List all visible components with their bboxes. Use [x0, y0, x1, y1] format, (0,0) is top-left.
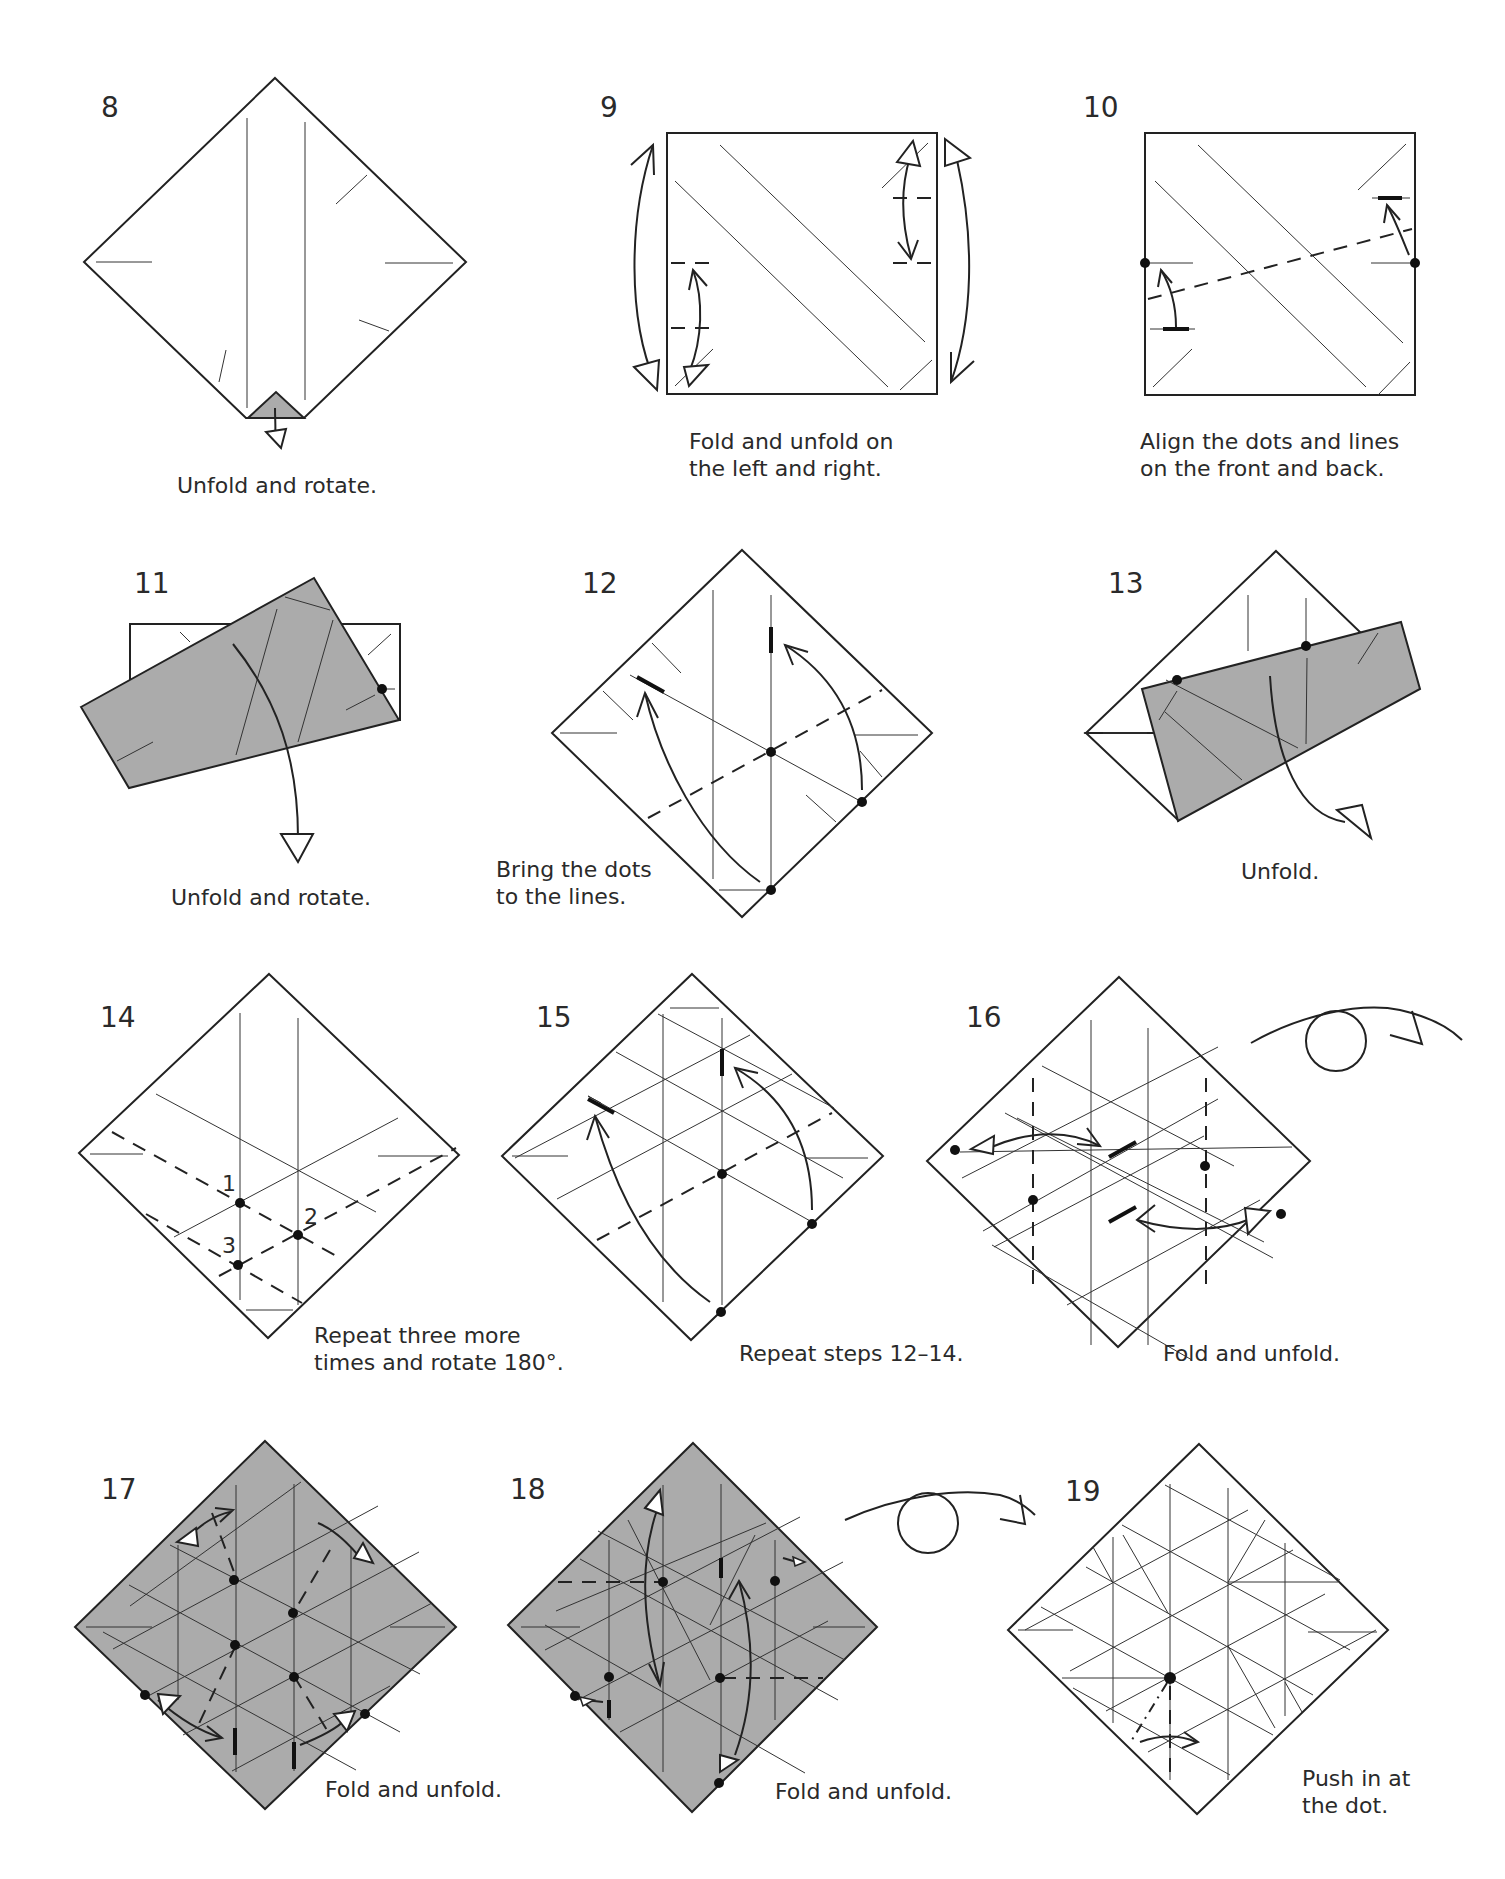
step-10-diagram: [1140, 133, 1420, 395]
step-number-17: 17: [101, 1476, 137, 1504]
step-9-diagram: [631, 133, 974, 394]
turn-over-icon: [1251, 1008, 1462, 1071]
step-number-13: 13: [1108, 570, 1144, 598]
step-caption-12: Bring the dots to the lines.: [496, 856, 652, 910]
step-number-10: 10: [1083, 94, 1119, 122]
point-label-1: 1: [222, 1170, 236, 1198]
step-caption-10: Align the dots and lines on the front an…: [1140, 428, 1399, 482]
step-8-diagram: [84, 78, 466, 448]
step-caption-8: Unfold and rotate.: [177, 472, 377, 499]
point-label-3: 3: [222, 1232, 236, 1260]
step-number-14: 14: [100, 1004, 136, 1032]
step-11-diagram: [81, 578, 400, 862]
step-number-12: 12: [582, 570, 618, 598]
step-number-8: 8: [101, 94, 119, 122]
step-caption-16: Fold and unfold.: [1163, 1340, 1340, 1367]
step-caption-11: Unfold and rotate.: [171, 884, 371, 911]
step-number-18: 18: [510, 1476, 546, 1504]
step-caption-18: Fold and unfold.: [775, 1778, 952, 1805]
point-label-2: 2: [304, 1203, 318, 1231]
step-caption-14: Repeat three more times and rotate 180°.: [314, 1322, 564, 1376]
turn-over-icon-2: [845, 1492, 1035, 1553]
step-number-19: 19: [1065, 1478, 1101, 1506]
step-caption-15: Repeat steps 12–14.: [739, 1340, 963, 1367]
step-14-diagram: [79, 974, 459, 1338]
step-number-9: 9: [600, 94, 618, 122]
step-caption-13: Unfold.: [1241, 858, 1319, 885]
step-18-diagram: [508, 1443, 877, 1812]
step-number-15: 15: [536, 1004, 572, 1032]
diagram-canvas: [0, 0, 1505, 1879]
step-number-16: 16: [966, 1004, 1002, 1032]
step-caption-9: Fold and unfold on the left and right.: [689, 428, 893, 482]
step-number-11: 11: [134, 570, 170, 598]
step-caption-17: Fold and unfold.: [325, 1776, 502, 1803]
step-16-diagram: [927, 977, 1310, 1360]
step-caption-19: Push in at the dot.: [1302, 1765, 1410, 1819]
